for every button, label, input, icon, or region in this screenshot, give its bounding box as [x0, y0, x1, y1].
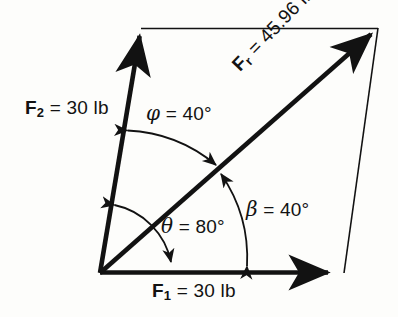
- label-phi: φ = 40°: [146, 103, 212, 123]
- label-f2: F2 = 30 lb: [25, 98, 109, 119]
- label-f1: F1 = 30 lb: [152, 281, 236, 302]
- label-beta: β = 40°: [246, 199, 309, 219]
- label-theta: θ = 80°: [161, 216, 225, 236]
- parallelogram-right-side: [344, 28, 378, 273]
- diagram-canvas: [0, 0, 398, 317]
- vector-f2: [100, 36, 140, 273]
- angle-arc-beta: [221, 174, 247, 266]
- force-parallelogram-diagram: F2 = 30 lb φ = 40° Fr = 45.96 lb β = 40°…: [0, 0, 398, 317]
- angle-arc-phi: [128, 131, 217, 166]
- vector-fr: [100, 34, 371, 273]
